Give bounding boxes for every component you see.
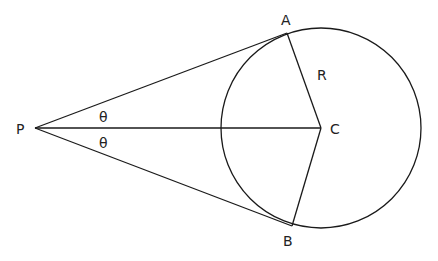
label-theta-upper: θ bbox=[99, 109, 108, 125]
tangent-line-pa bbox=[35, 33, 287, 128]
radius-cb bbox=[292, 128, 321, 226]
label-theta-lower: θ bbox=[99, 135, 108, 151]
label-c: C bbox=[330, 121, 340, 137]
tangent-line-pb bbox=[35, 128, 292, 226]
label-p: P bbox=[16, 121, 24, 137]
radius-ca bbox=[287, 33, 321, 128]
label-b: B bbox=[283, 233, 293, 249]
tangent-diagram: P A B C R θ θ bbox=[0, 0, 438, 261]
label-radius: R bbox=[317, 67, 327, 83]
label-a: A bbox=[281, 12, 291, 28]
